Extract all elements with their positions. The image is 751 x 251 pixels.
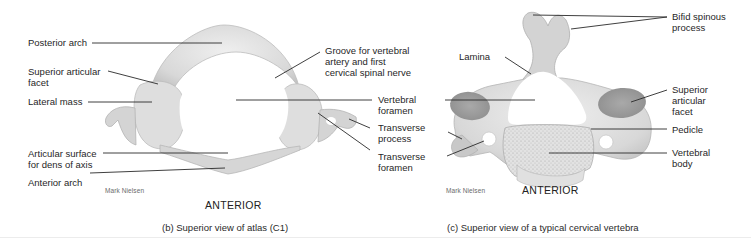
label-lateral-mass: Lateral mass bbox=[28, 96, 82, 107]
divider bbox=[0, 237, 751, 238]
label-superior-articular-facet-cervical: Superior articular facet bbox=[672, 84, 708, 117]
label-lamina: Lamina bbox=[459, 51, 490, 62]
credit-cervical: Mark Nielsen bbox=[446, 187, 485, 194]
orientation-atlas: ANTERIOR bbox=[205, 199, 262, 211]
label-articular-surface-dens: Articular surface for dens of axis bbox=[28, 148, 97, 170]
label-groove-vertebral-artery: Groove for vertebral artery and first ce… bbox=[325, 45, 411, 78]
label-vertebral-foramen: Vertebral foramen bbox=[378, 94, 416, 116]
label-pedicle: Pedicle bbox=[672, 124, 703, 135]
label-transverse-foramen: Transverse foramen bbox=[378, 151, 425, 173]
label-vertebral-body: Vertebral body bbox=[672, 147, 710, 169]
atlas-bone bbox=[105, 25, 356, 174]
orientation-cervical: ANTERIOR bbox=[522, 184, 579, 196]
credit-atlas: Mark Nielsen bbox=[105, 187, 144, 194]
label-posterior-arch: Posterior arch bbox=[28, 37, 87, 48]
label-anterior-arch: Anterior arch bbox=[28, 177, 82, 188]
anatomy-artwork bbox=[0, 0, 751, 251]
label-transverse-process: Transverse process bbox=[378, 122, 425, 144]
caption-cervical: (c) Superior view of a typical cervical … bbox=[447, 222, 639, 233]
label-bifid-spinous-process: Bifid spinous process bbox=[672, 11, 726, 33]
caption-atlas: (b) Superior view of atlas (C1) bbox=[162, 222, 288, 233]
label-superior-articular-facet-atlas: Superior articular facet bbox=[28, 66, 100, 88]
